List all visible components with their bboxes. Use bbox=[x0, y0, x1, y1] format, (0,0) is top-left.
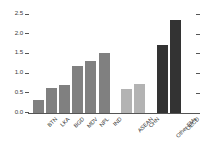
x-axis-label-npl: NPL bbox=[98, 116, 110, 128]
x-axis-label-btn: BTN bbox=[46, 116, 58, 128]
y-axis-tick-mark-right bbox=[196, 73, 200, 74]
y-axis-tick-mark bbox=[25, 73, 29, 74]
bar-bgd bbox=[59, 85, 70, 113]
y-axis-tick-label: 1.5 bbox=[15, 48, 23, 55]
bar-lka bbox=[46, 88, 57, 113]
y-axis-tick-mark bbox=[25, 14, 29, 15]
y-axis-tick-label: 2.5 bbox=[15, 9, 23, 16]
bar-mdv bbox=[72, 66, 83, 113]
bar-chn bbox=[134, 84, 145, 113]
y-axis-tick-mark-right bbox=[196, 34, 200, 35]
y-axis-tick-label: 2.0 bbox=[15, 29, 23, 36]
y-axis-tick-mark-right bbox=[196, 14, 200, 15]
y-axis-tick-label: 0.0 bbox=[15, 108, 23, 115]
y-axis-tick-mark bbox=[25, 92, 29, 93]
y-axis-tick-label: 1.0 bbox=[15, 68, 23, 75]
x-axis-label-oecd: OECD bbox=[185, 116, 201, 132]
x-axis-label-ind: IND bbox=[111, 116, 122, 127]
bar-asean bbox=[121, 89, 132, 113]
x-axis-label-bgd: BGD bbox=[72, 116, 85, 129]
bar-oecd bbox=[170, 20, 181, 113]
bar-chart: 0.00.51.01.52.02.5 BTNLKABGDMDVNPLINDASE… bbox=[0, 0, 209, 151]
bar-other-ems bbox=[157, 45, 168, 113]
bar-ind bbox=[99, 53, 110, 113]
x-axis-label-lka: LKA bbox=[59, 116, 71, 128]
y-axis-tick-mark bbox=[25, 53, 29, 54]
bar-btn bbox=[33, 100, 44, 113]
y-axis-tick-mark-right bbox=[196, 93, 200, 94]
plot-area bbox=[30, 14, 193, 113]
bar-npl bbox=[85, 61, 96, 113]
y-axis-tick-mark-right bbox=[196, 113, 200, 114]
x-axis-label-mdv: MDV bbox=[86, 116, 99, 129]
y-axis-tick-mark bbox=[25, 33, 29, 34]
y-axis-tick-label: 0.5 bbox=[15, 88, 23, 95]
y-axis-tick-mark-right bbox=[196, 53, 200, 54]
